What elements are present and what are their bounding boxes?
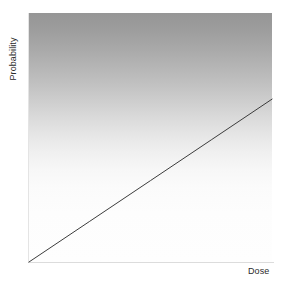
y-axis-label-text: Probability	[8, 28, 18, 90]
chart-figure: Probability Dose	[0, 0, 284, 288]
data-series-layer	[0, 0, 284, 288]
series-line-dose-response	[29, 99, 272, 262]
x-axis-label: Dose	[248, 266, 269, 276]
y-axis-label: Probability	[0, 28, 26, 90]
